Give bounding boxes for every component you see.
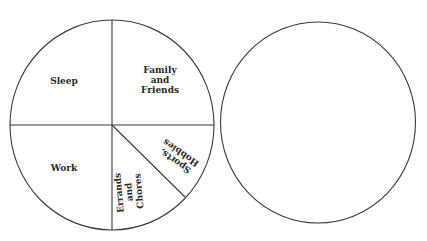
slice-label-work: Work xyxy=(44,163,84,173)
filled-pie-chart xyxy=(10,20,214,230)
blank-circle xyxy=(221,22,416,223)
pie-charts-canvas xyxy=(0,0,427,241)
slice-label-sleep: Sleep xyxy=(44,76,84,86)
slice-label-errands-and-chores: Errands and Chores xyxy=(112,166,146,218)
slice-label-family-and-friends: Family and Friends xyxy=(130,65,190,95)
blank-pie-chart xyxy=(221,22,416,223)
